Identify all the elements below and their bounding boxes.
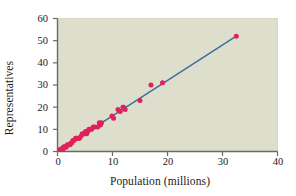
data-point	[234, 34, 239, 39]
scatterplot-figure: Representatives Population (millions) 60…	[0, 0, 296, 196]
data-point	[118, 109, 123, 114]
plot-area	[0, 0, 296, 196]
data-point	[138, 98, 143, 103]
data-point	[111, 116, 116, 121]
data-point	[99, 120, 104, 125]
data-point	[149, 83, 154, 88]
data-point	[123, 107, 128, 112]
data-point	[160, 80, 165, 85]
